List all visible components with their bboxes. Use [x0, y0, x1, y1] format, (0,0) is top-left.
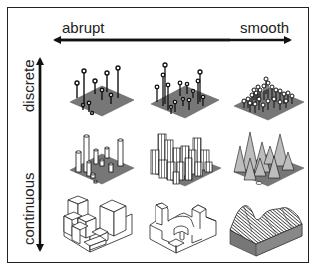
panel-discrete-abrupt-pins [62, 60, 142, 120]
panel-discrete-smooth-peaks [228, 128, 310, 190]
panel-discrete-intermediate-pins [145, 58, 225, 120]
label-discrete: discrete [21, 59, 36, 112]
panel-continuous-intermediate-carved [146, 195, 224, 259]
label-continuous: continuous [21, 172, 36, 245]
panel-discrete-intermediate-cylinders [145, 128, 227, 190]
panel-discrete-smooth-pins [228, 60, 310, 122]
label-smooth: smooth [240, 20, 289, 35]
panel-continuous-abrupt-blocks [60, 192, 142, 258]
panel-discrete-abrupt-cylinders [62, 128, 142, 188]
panel-continuous-smooth-terrain [226, 198, 308, 260]
label-abrupt: abrupt [62, 20, 105, 35]
